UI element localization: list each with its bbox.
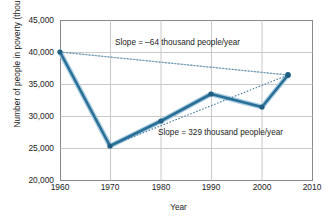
data-point-1980	[158, 118, 163, 123]
data-point-2000	[259, 104, 264, 109]
poverty-line-chart: Number of people in poverty (thousands) …	[0, 0, 331, 220]
x-tick-label: 1970	[101, 182, 120, 192]
x-axis-label: Year	[0, 203, 331, 212]
x-tick-label: 2010	[303, 182, 322, 192]
x-tick-label: 1960	[51, 182, 70, 192]
x-tick-label: 1980	[152, 182, 171, 192]
annotation-slope-negative: Slope = –64 thousand people/year	[115, 38, 240, 47]
data-point-1960	[57, 49, 62, 54]
data-point-1970	[107, 143, 112, 148]
x-tick-label: 1990	[202, 182, 221, 192]
annotation-slope-positive: Slope = 329 thousand people/year	[158, 128, 283, 137]
data-point-2005	[285, 72, 291, 78]
x-tick-label: 2000	[253, 182, 272, 192]
data-point-1990	[208, 91, 213, 96]
